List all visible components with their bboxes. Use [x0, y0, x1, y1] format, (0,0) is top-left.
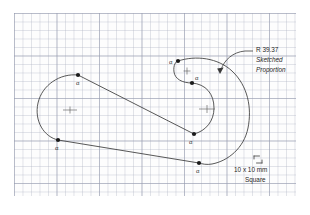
square-symbol-corner-top: [254, 156, 260, 159]
sketched-note-label: Sketched: [256, 57, 283, 63]
inner-curl-arc: [192, 83, 214, 134]
curl-tip-arc: [174, 61, 192, 83]
tangent-dot: [192, 132, 196, 136]
tangent-label-curl-upper: α: [169, 59, 172, 65]
tangent-dot: [176, 59, 180, 63]
tangent-label-curl-lower: α: [195, 75, 198, 81]
lower-tangent-line: [58, 140, 199, 163]
upper-tangent-line: [78, 75, 194, 134]
proportion-note-label: Proportion: [256, 67, 286, 73]
tangent-dot: [190, 81, 194, 85]
tangent-dot: [76, 73, 80, 77]
center-mark-curl: [184, 68, 191, 75]
radius-leader-line: [221, 51, 253, 70]
center-mark-right: [199, 105, 215, 113]
tangent-label-upper-left: α: [76, 80, 79, 86]
square-size-label-line1: 10 x 10 mm: [234, 167, 267, 173]
left-arc-path: [37, 75, 78, 140]
radius-note-label: R 39.37: [256, 47, 278, 53]
tangent-dot: [56, 138, 60, 142]
center-mark-left: [63, 107, 77, 114]
square-symbol: [254, 156, 262, 163]
radius-leader-arrowhead: [217, 68, 223, 74]
tangent-label-bottom: α: [196, 168, 199, 174]
hook-outline: [37, 58, 249, 164]
tangent-label-lower-left: α: [55, 145, 58, 151]
tangent-label-mid-right: α: [189, 139, 192, 145]
center-mark-group: [63, 68, 215, 114]
square-symbol-corner-bottom: [257, 160, 263, 163]
drawing-canvas: α α α α α α R 39.37 Sketched Proportion …: [0, 0, 310, 215]
tangent-dot-group: [56, 59, 201, 165]
square-size-label-line2: Square: [245, 177, 266, 183]
radius-leader: [217, 51, 253, 74]
tangent-dot: [197, 161, 201, 165]
